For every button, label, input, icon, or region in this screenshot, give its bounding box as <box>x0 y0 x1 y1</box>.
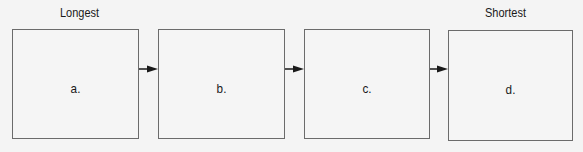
box-c: c. <box>304 29 430 139</box>
box-b: b. <box>158 29 285 139</box>
box-d: d. <box>448 30 573 141</box>
box-b-label: b. <box>165 81 278 96</box>
box-a-label: a. <box>19 81 132 96</box>
arrow-b-to-c-icon <box>285 63 304 75</box>
box-d-label: d. <box>455 82 566 97</box>
box-c-label: c. <box>311 81 423 96</box>
arrow-a-to-b-icon <box>139 63 158 75</box>
arrow-c-to-d-icon <box>430 63 448 75</box>
longest-label: Longest <box>60 6 99 20</box>
box-a: a. <box>12 29 139 139</box>
shortest-label: Shortest <box>485 6 526 20</box>
